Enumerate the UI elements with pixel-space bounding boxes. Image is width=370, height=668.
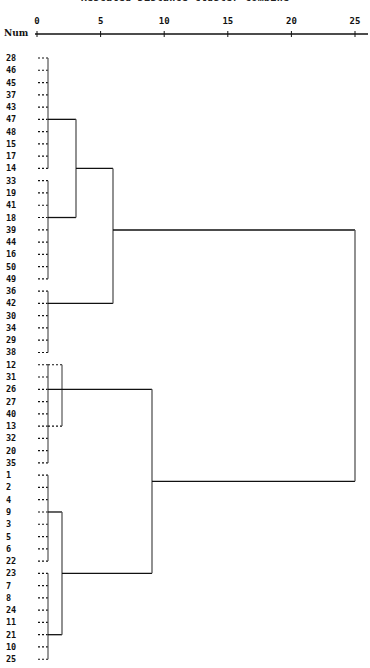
dendrogram-plot	[0, 0, 370, 668]
